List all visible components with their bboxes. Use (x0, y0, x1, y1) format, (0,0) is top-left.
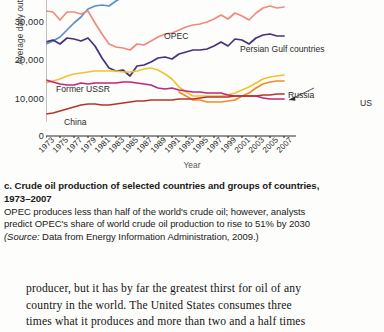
body-line-1: producer, but it has by far the greatest… (26, 281, 366, 298)
series-label-former-ussr: Former USSR (56, 84, 110, 94)
chart-figure: Average daily output 30,000 20,000 10,00… (0, 0, 384, 176)
x-tick-2007: 2007 (275, 135, 294, 154)
caption-source-rest: Data from Energy Information Administrat… (40, 231, 259, 242)
figure-caption: c. Crude oil production of selected coun… (4, 180, 384, 243)
series-label-persian-gulf: Persian Gulf countries (240, 44, 325, 54)
caption-source: (Source: Data from Energy Information Ad… (4, 231, 384, 244)
caption-title-line2: 1973–2007 (4, 193, 52, 204)
y-tick-10000: 10,000 (0, 94, 44, 104)
caption-body-line2: predict OPEC's share of world crude oil … (4, 218, 384, 231)
y-tick-20000: 20,000 (0, 55, 44, 65)
caption-title-line1: c. Crude oil production of selected coun… (4, 180, 319, 191)
plot-area (46, 0, 338, 138)
caption-title: c. Crude oil production of selected coun… (4, 180, 384, 205)
x-axis-label: Year (0, 160, 384, 170)
y-tick-0: 0 (0, 131, 44, 141)
series-line-china (46, 94, 284, 114)
article-body-text: producer, but it has by far the greatest… (26, 281, 366, 331)
caption-source-label: (Source: (4, 231, 40, 242)
series-label-china: China (64, 117, 86, 127)
caption-body-line1: OPEC produces less than half of the worl… (4, 206, 384, 219)
caption-body: OPEC produces less than half of the worl… (4, 206, 384, 244)
series-label-opec: OPEC (164, 31, 188, 41)
plot-svg (46, 0, 338, 138)
body-line-3: times what it produces and more than two… (26, 314, 366, 331)
body-line-2: country in the world. The United States … (26, 298, 366, 315)
series-label-us: US (360, 98, 372, 108)
y-tick-30000: 30,000 (0, 17, 44, 27)
series-label-russia: Russia (288, 90, 314, 100)
